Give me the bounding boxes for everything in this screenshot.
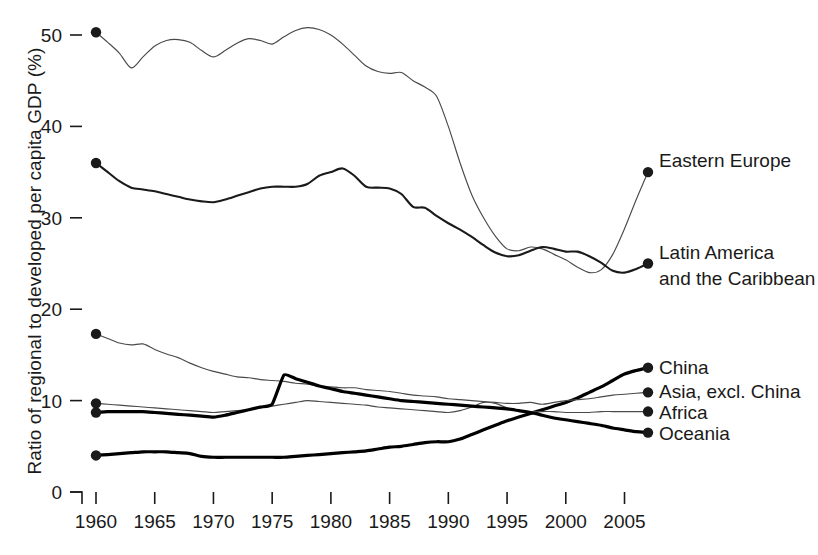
start-marker [91, 329, 101, 339]
end-marker [643, 167, 653, 177]
series-lines [96, 28, 648, 458]
series-label-eastern-europe: Eastern Europe [659, 150, 791, 171]
x-tick-label: 1960 [75, 511, 117, 532]
y-tick-label: 40 [41, 116, 62, 137]
end-marker [643, 258, 653, 268]
series-label-china: China [659, 357, 709, 378]
x-tick-label: 1980 [310, 511, 352, 532]
y-tick-label: 20 [41, 299, 62, 320]
x-tick-label: 1965 [134, 511, 176, 532]
series-label-latin-america-1: Latin America [659, 242, 775, 263]
start-marker [91, 158, 101, 168]
end-marker [643, 427, 653, 437]
series-label-asia: Asia, excl. China [659, 381, 801, 402]
y-axis-ticks: 50403020100 [41, 25, 82, 503]
x-axis-ticks: 1960196519701975198019851990199520002005 [75, 492, 646, 532]
series-labels: Eastern EuropeLatin Americaand the Carib… [659, 150, 815, 444]
series-label-oceania: Oceania [659, 423, 730, 444]
series-line-asia-excl-china [96, 334, 648, 404]
start-marker [91, 27, 101, 37]
axis-corner [70, 492, 82, 504]
x-tick-label: 2005 [603, 511, 645, 532]
series-label-africa: Africa [659, 402, 708, 423]
start-marker [91, 398, 101, 408]
x-tick-label: 2000 [545, 511, 587, 532]
end-marker [643, 387, 653, 397]
y-tick-label: 10 [41, 391, 62, 412]
x-tick-label: 1970 [192, 511, 234, 532]
chart-canvas: 50403020100 1960196519701975198019851990… [0, 0, 818, 555]
x-tick-label: 1985 [368, 511, 410, 532]
y-tick-label: 30 [41, 208, 62, 229]
x-tick-label: 1995 [486, 511, 528, 532]
start-marker [91, 450, 101, 460]
x-tick-label: 1990 [427, 511, 469, 532]
end-marker [643, 406, 653, 416]
y-tick-label: 0 [51, 482, 62, 503]
start-marker [91, 407, 101, 417]
series-line-latin-america-and-the-caribbean [96, 163, 648, 273]
series-line-eastern-europe [96, 28, 648, 273]
x-tick-label: 1975 [251, 511, 293, 532]
end-marker [643, 362, 653, 372]
series-label-latin-america-2: and the Caribbean [659, 268, 815, 289]
chart-figure: Ratio of regional to developed per capit… [0, 0, 818, 555]
y-tick-label: 50 [41, 25, 62, 46]
